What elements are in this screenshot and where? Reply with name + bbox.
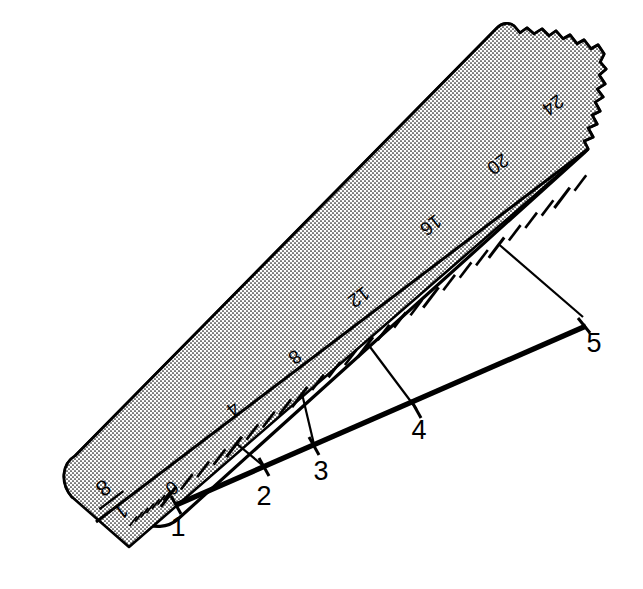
- tick-minor-19: [476, 250, 488, 265]
- tick-minor-25: [575, 175, 587, 190]
- figure-root: 0 4 8 12 16 20 24 1 8: [0, 0, 643, 589]
- tick-minor-21: [509, 225, 521, 240]
- tick-minor-22: [525, 213, 537, 228]
- tick-major-24: [554, 188, 569, 208]
- projection-line-4: [368, 344, 417, 409]
- projection-line-5: [499, 245, 583, 318]
- point-label-1: 1: [170, 512, 185, 542]
- point-label-4: 4: [411, 415, 426, 445]
- ruler-line-diagram: 0 4 8 12 16 20 24 1 8: [0, 0, 643, 589]
- point-label-5: 5: [586, 328, 601, 358]
- ruler: 0 4 8 12 16 20 24 1 8: [64, 24, 606, 547]
- tick-minor-23: [542, 200, 554, 215]
- point-label-2: 2: [256, 481, 271, 511]
- point-label-3: 3: [313, 456, 328, 486]
- ruler-stipple-band: [64, 24, 606, 547]
